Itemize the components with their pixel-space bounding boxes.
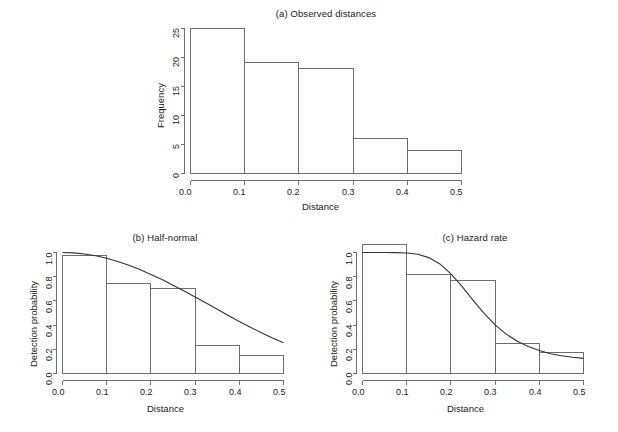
panel-b-yticklabel-0.6: 0.6 <box>44 300 54 313</box>
panel-a-xticklabel-0.4: 0.4 <box>396 187 409 197</box>
panel-c-yticklabel-0.8: 0.8 <box>344 276 354 289</box>
panel-a-xticklabel-0.0: 0.0 <box>179 187 192 197</box>
panel-b-bars <box>63 256 284 374</box>
panel-b: (b) Half-normal <box>0 228 300 432</box>
panel-c-yticklabel-0.6: 0.6 <box>344 300 354 313</box>
panel-c-yticklabel-0.0: 0.0 <box>344 372 354 385</box>
panel-a-bar-1 <box>191 29 245 174</box>
panel-b-bar-1 <box>63 256 107 374</box>
panel-b-xlabel: Distance <box>147 403 184 414</box>
panel-b-xticklabel-0.5: 0.5 <box>273 387 286 397</box>
panel-c-ylabel: Detection probability <box>328 281 339 367</box>
panel-a-yticklabel-25: 25 <box>171 28 181 38</box>
panel-c-xticklabel-0.2: 0.2 <box>440 387 453 397</box>
panel-a-bar-3 <box>299 68 354 173</box>
panel-a-xlabel: Distance <box>302 201 339 212</box>
panel-a-bar-4 <box>354 139 408 174</box>
panel-b-yticklabel-0.0: 0.0 <box>44 372 54 385</box>
panel-c-xticklabel-0.4: 0.4 <box>529 387 542 397</box>
panel-b-bar-3 <box>151 289 195 374</box>
panel-a-yticklabel-10: 10 <box>171 115 181 125</box>
figure-canvas: (a) Observed distances <box>0 0 618 432</box>
panel-c-xticklabel-0.0: 0.0 <box>352 387 365 397</box>
panel-b-yticklabel-0.4: 0.4 <box>44 324 54 337</box>
panel-b-xticklabel-0.1: 0.1 <box>96 387 109 397</box>
panel-a-yticklabel-20: 20 <box>171 57 181 67</box>
panel-b-ylabel: Detection probability <box>28 281 39 367</box>
panel-a-bars <box>191 29 462 174</box>
panel-c-yticklabel-1.0: 1.0 <box>344 252 354 265</box>
panel-b-yticklabel-0.8: 0.8 <box>44 276 54 289</box>
panel-c-yticklabel-0.2: 0.2 <box>344 348 354 361</box>
panel-b-yticklabel-1.0: 1.0 <box>44 252 54 265</box>
panel-a-plot <box>0 0 618 215</box>
panel-b-yticklabel-0.2: 0.2 <box>44 348 54 361</box>
panel-a-yticklabel-5: 5 <box>171 144 181 149</box>
panel-a-xticklabel-0.5: 0.5 <box>450 187 463 197</box>
panel-a-yticklabel-15: 15 <box>171 86 181 96</box>
panel-c-bar-2 <box>407 274 451 373</box>
panel-b-xticklabel-0.2: 0.2 <box>140 387 153 397</box>
panel-a-xticklabel-0.2: 0.2 <box>287 187 300 197</box>
panel-b-xticklabel-0.3: 0.3 <box>184 387 197 397</box>
panel-b-xticklabel-0.4: 0.4 <box>229 387 242 397</box>
panel-a-xticklabel-0.3: 0.3 <box>342 187 355 197</box>
panel-c-xticklabel-0.3: 0.3 <box>484 387 497 397</box>
panel-a-yticklabel-0: 0 <box>171 173 181 178</box>
panel-b-bar-2 <box>107 284 151 374</box>
panel-a-xticklabel-0.1: 0.1 <box>233 187 246 197</box>
panel-b-bar-5 <box>239 356 283 374</box>
panel-c-bar-1 <box>363 244 407 374</box>
panel-b-xticklabel-0.0: 0.0 <box>52 387 65 397</box>
panel-a-ylabel: Frequency <box>155 83 166 128</box>
panel-a-bar-5 <box>408 150 462 173</box>
panel-c-xticklabel-0.5: 0.5 <box>573 387 586 397</box>
panel-c: (c) Hazard rate <box>300 228 618 432</box>
panel-b-detection-curve <box>63 253 284 343</box>
panel-c-bar-3 <box>451 280 495 373</box>
panel-a-bar-2 <box>245 62 299 173</box>
panel-a: (a) Observed distances <box>0 0 618 215</box>
panel-c-detection-curve <box>363 253 584 359</box>
panel-c-yticklabel-0.4: 0.4 <box>344 324 354 337</box>
panel-a-svg <box>0 0 618 215</box>
panel-b-bar-4 <box>195 346 239 374</box>
panel-c-xticklabel-0.1: 0.1 <box>396 387 409 397</box>
panel-c-xlabel: Distance <box>447 403 484 414</box>
